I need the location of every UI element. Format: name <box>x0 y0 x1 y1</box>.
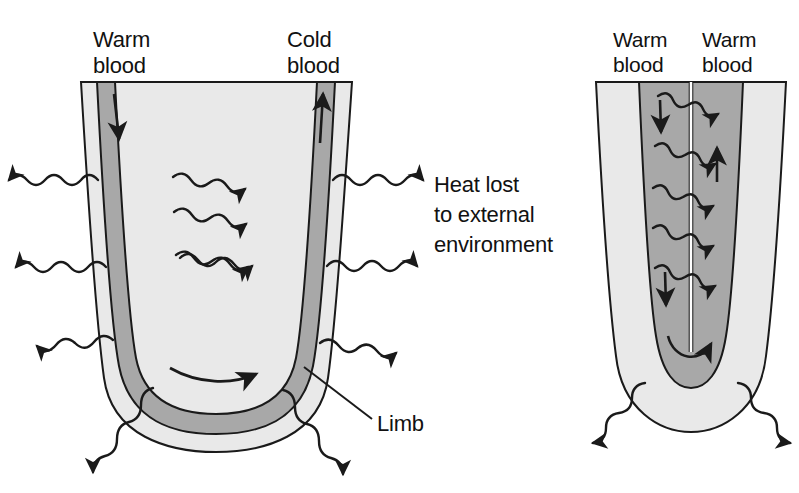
right-artery-flow-arrow-top <box>660 100 661 132</box>
label-warm-blood-vein-right: Warm blood <box>702 27 756 77</box>
label-warm-blood-artery-right: Warm blood <box>613 27 667 77</box>
right-heat-arrow-out-2 <box>327 261 417 271</box>
label-cold-blood-left: Cold blood <box>287 27 340 79</box>
figure-canvas: Warm blood Cold blood Heat lost to exter… <box>0 0 799 493</box>
left-heat-arrow-out-1 <box>9 175 98 185</box>
right-artery-flow-arrow-bottom <box>665 272 666 305</box>
label-limb: Limb <box>377 411 424 437</box>
right-limb-group <box>593 82 790 443</box>
label-warm-blood-left: Warm blood <box>93 27 150 79</box>
left-limb-group <box>9 82 423 474</box>
right-heat-arrow-out-1 <box>333 175 423 185</box>
label-heat-lost: Heat lost to external environment <box>434 170 553 260</box>
